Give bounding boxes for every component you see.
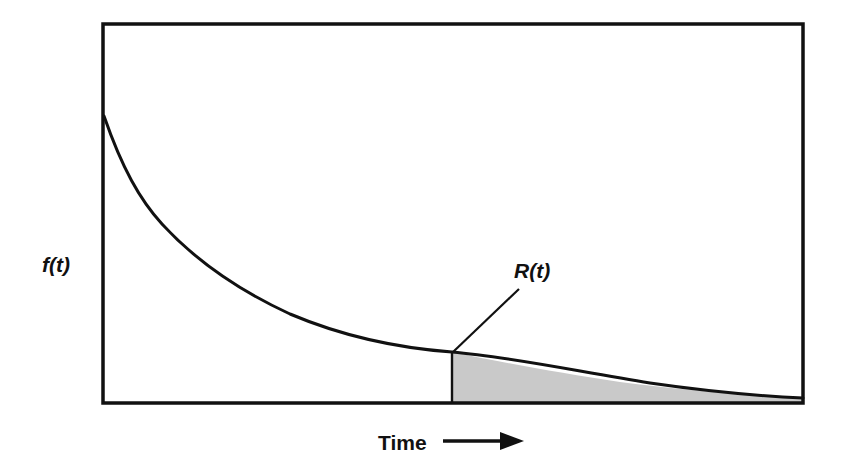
y-axis-label: f(t): [42, 253, 70, 276]
x-axis-label: Time: [378, 431, 427, 454]
plot-frame: [103, 24, 803, 403]
shaded-region-label: R(t): [514, 259, 550, 282]
reliability-chart: f(t) R(t) Time: [0, 0, 844, 468]
figure-container: f(t) R(t) Time: [0, 0, 844, 468]
right-arrow-icon: [443, 432, 524, 450]
rt-leader-line: [453, 289, 519, 352]
